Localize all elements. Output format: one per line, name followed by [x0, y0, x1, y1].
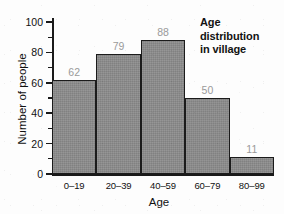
y-minor-tick-mark: [48, 67, 53, 68]
x-tick-label: 40–59: [150, 180, 176, 191]
bar-value-label: 50: [202, 84, 214, 96]
bar-value-label: 62: [68, 66, 80, 78]
y-tick-label: 60: [31, 77, 43, 89]
bar-80–99: [230, 157, 274, 174]
histogram-chart: Age distribution in village Number of pe…: [0, 0, 284, 214]
x-tick-label: 0–19: [64, 180, 85, 191]
bar-20–39: [96, 54, 140, 174]
bar-value-label: 88: [157, 26, 169, 38]
x-axis-title: Age: [52, 196, 266, 208]
bar-value-label: 79: [113, 40, 125, 52]
y-tick-label: 20: [31, 138, 43, 150]
x-axis-line: [52, 174, 274, 176]
y-tick-mark: [46, 21, 53, 23]
bar-40–59: [141, 40, 185, 174]
x-tick-label: 20–39: [106, 180, 132, 191]
y-tick-label: 80: [31, 46, 43, 58]
y-tick-label: 40: [31, 107, 43, 119]
y-tick-label: 100: [25, 16, 43, 28]
y-tick-mark: [46, 52, 53, 54]
bar-60–79: [185, 98, 229, 174]
x-tick-label: 60–79: [194, 180, 220, 191]
y-minor-tick-mark: [48, 37, 53, 38]
y-tick-label: 0: [37, 168, 43, 180]
plot-area: 020406080100 6279885011 0–1920–3940–5960…: [52, 22, 274, 174]
bar-value-label: 11: [246, 143, 257, 155]
x-tick-label: 80–99: [239, 180, 265, 191]
y-axis-title: Number of people: [16, 29, 28, 169]
bar-0–19: [52, 80, 96, 174]
